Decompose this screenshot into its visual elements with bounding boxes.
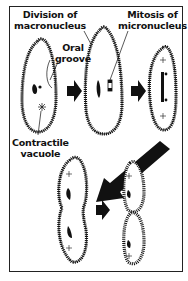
label-line: micronucleus [118, 20, 187, 31]
micronucleus [38, 85, 41, 88]
label-line: vacuole [12, 148, 69, 159]
label-line: Mitosis of [118, 9, 187, 20]
label-mitosis-of-micronucleus: Mitosis of micronucleus [118, 9, 187, 31]
contractile-vacuole-icon [38, 103, 46, 111]
label-line: Oral [55, 42, 91, 53]
stage-3-cell [149, 47, 176, 131]
label-line: Contractile [12, 137, 69, 148]
arrow-right-icon-3 [96, 200, 110, 220]
stage-1-cell [22, 39, 56, 132]
label-line: Division of [14, 9, 86, 20]
label-oral-groove: Oral groove [55, 42, 91, 64]
arrow-right-icon-1 [67, 80, 82, 102]
stage-4-cell [59, 157, 87, 262]
label-line: macronucleus [14, 20, 86, 31]
label-contractile-vacuole: Contractile vacuole [12, 137, 69, 159]
stage-5-cells [124, 162, 144, 264]
arrow-right-icon-2 [131, 80, 146, 102]
label-division-of-macronucleus: Division of macronucleus [14, 9, 86, 31]
label-line: groove [55, 53, 91, 64]
